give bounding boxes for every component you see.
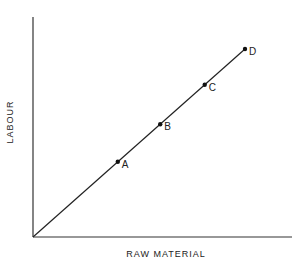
points-layer: ABCD: [116, 46, 257, 170]
point-a: [116, 160, 120, 164]
y-axis-label: LABOUR: [5, 100, 15, 143]
point-label-b: B: [164, 121, 171, 132]
x-axis-label: RAW MATERIAL: [126, 249, 206, 259]
point-label-d: D: [249, 46, 256, 57]
expansion-line: [33, 49, 245, 237]
point-label-a: A: [122, 159, 129, 170]
diagram-canvas: ABCD RAW MATERIAL LABOUR: [0, 0, 306, 266]
point-c: [203, 83, 207, 87]
point-label-c: C: [209, 82, 216, 93]
point-d: [243, 47, 247, 51]
point-b: [158, 122, 162, 126]
